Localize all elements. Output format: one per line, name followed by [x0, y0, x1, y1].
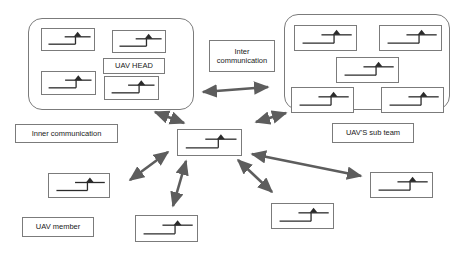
uav-head-label: UAV HEAD	[103, 58, 165, 74]
inner-communication-label-text: Inner communication	[32, 129, 102, 138]
arrow-center-to-bottom-left	[173, 161, 186, 206]
uav-member-right[interactable]	[370, 172, 433, 198]
uav-head-label-text: UAV HEAD	[115, 61, 153, 70]
inner-communication-label: Inner communication	[15, 124, 118, 143]
uav-subteam-member-4[interactable]	[291, 87, 354, 113]
uav-member-bottom-center[interactable]	[271, 203, 334, 229]
uav-glyph	[42, 29, 96, 52]
uav-member-label: UAV member	[22, 217, 94, 237]
uav-subteam-member-3[interactable]	[336, 57, 399, 83]
uav-head-member-4[interactable]	[104, 76, 159, 100]
uav-glyph	[178, 130, 243, 157]
uav-subteam-member-1[interactable]	[294, 25, 357, 51]
inter-communication-label-text: Inter communication	[217, 47, 267, 66]
arrow-head-to-subteam	[203, 87, 268, 92]
uav-glyph	[42, 72, 97, 96]
uav-glyph	[292, 88, 355, 114]
arrow-center-to-subteam	[256, 113, 286, 122]
uav-sub-team-label: UAV'S sub team	[332, 123, 414, 143]
uav-center-node[interactable]	[177, 129, 242, 156]
uav-glyph	[105, 77, 160, 101]
uav-glyph	[371, 173, 434, 199]
uav-glyph	[136, 216, 199, 243]
uav-glyph	[380, 26, 443, 52]
uav-member-left[interactable]	[48, 173, 110, 198]
uav-glyph	[49, 174, 111, 199]
uav-head-member-1[interactable]	[41, 28, 95, 51]
arrow-center-to-bottom-center	[238, 160, 272, 192]
arrow-center-to-right	[252, 154, 361, 176]
uav-subteam-member-2[interactable]	[379, 25, 442, 51]
uav-sub-team-label-text: UAV'S sub team	[346, 128, 400, 137]
uav-glyph	[272, 204, 335, 230]
uav-head-member-3[interactable]	[41, 71, 96, 95]
arrow-center-to-left	[130, 152, 168, 180]
uav-glyph	[382, 88, 445, 114]
diagram-canvas: UAV HEAD Inter communication Inner commu…	[0, 0, 461, 261]
uav-glyph	[337, 58, 400, 84]
uav-member-label-text: UAV member	[36, 222, 80, 231]
uav-member-bottom-left[interactable]	[135, 215, 198, 242]
arrow-center-to-head	[155, 112, 184, 123]
inter-communication-label: Inter communication	[209, 40, 275, 72]
uav-glyph	[113, 31, 167, 54]
uav-glyph	[295, 26, 358, 52]
uav-subteam-member-5[interactable]	[381, 87, 444, 113]
uav-head-member-2[interactable]	[112, 30, 166, 53]
